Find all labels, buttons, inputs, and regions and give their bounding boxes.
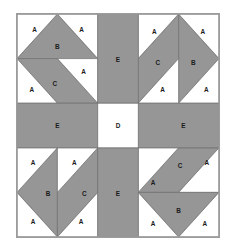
label-a-bl-4: A	[79, 218, 84, 225]
label-a-bl-2: A	[72, 158, 77, 165]
quadrant-bottom-left: A A B C A A	[17, 148, 98, 237]
quadrant-top-left: A A B A C A	[17, 14, 98, 103]
label-a-br-2: A	[205, 158, 210, 165]
label-a-tl-3: A	[30, 85, 35, 92]
label-c-br: C	[178, 162, 183, 169]
label-a-br-4: A	[203, 220, 208, 227]
quadrant-top-right: A A C B A A	[138, 14, 219, 103]
label-a-tr-1: A	[152, 27, 157, 34]
label-c-bl: C	[82, 189, 87, 196]
label-b-br: B	[176, 207, 181, 214]
label-a-tl-1: A	[32, 26, 37, 33]
label-a-tr-2: A	[201, 27, 206, 34]
label-a-br-3: A	[151, 220, 156, 227]
label-b-tr: B	[191, 59, 196, 66]
label-e-right: E	[181, 122, 186, 129]
quadrant-bottom-right: C A A B A A	[138, 148, 219, 237]
label-c-tl: C	[52, 79, 57, 86]
quilt-block-svg: A A B A C A A	[17, 14, 219, 237]
label-e-top: E	[116, 56, 121, 63]
label-a-br-1: A	[151, 178, 156, 185]
label-c-tr: C	[155, 59, 160, 66]
piece-e-sashing-right	[138, 103, 219, 148]
label-e-left: E	[55, 122, 60, 129]
label-a-tl-4: A	[81, 68, 86, 75]
label-b-bl: B	[46, 189, 51, 196]
label-e-bottom: E	[116, 190, 121, 197]
label-a-tr-3: A	[160, 86, 165, 93]
label-a-tr-4: A	[204, 86, 209, 93]
label-a-bl-1: A	[31, 158, 36, 165]
label-d-center: D	[116, 122, 121, 129]
quilt-block-diagram: A A B A C A A	[16, 13, 220, 238]
label-b-tl: B	[55, 42, 60, 49]
label-a-bl-3: A	[31, 218, 36, 225]
quilt-block-figure: A A B A C A A	[0, 0, 236, 250]
label-a-tl-2: A	[79, 26, 84, 33]
